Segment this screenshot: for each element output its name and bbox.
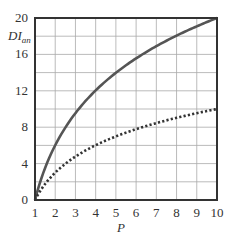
x-tick-label: 1 bbox=[32, 205, 39, 220]
x-tick-label: 8 bbox=[173, 205, 180, 220]
line-chart: 12345678910 048121620 DIan P bbox=[0, 0, 236, 247]
y-tick-label: 20 bbox=[15, 10, 28, 25]
x-tick-labels: 12345678910 bbox=[32, 205, 224, 220]
y-tick-label: 12 bbox=[15, 83, 28, 98]
x-tick-label: 3 bbox=[72, 205, 79, 220]
x-tick-label: 7 bbox=[153, 205, 160, 220]
x-tick-label: 6 bbox=[133, 205, 140, 220]
x-tick-label: 4 bbox=[92, 205, 99, 220]
y-tick-label: 16 bbox=[15, 46, 29, 61]
x-tick-label: 5 bbox=[113, 205, 120, 220]
y-tick-label: 0 bbox=[22, 192, 29, 207]
y-tick-label: 4 bbox=[22, 156, 29, 171]
series-dotted-line bbox=[35, 109, 217, 200]
y-tick-label: 8 bbox=[22, 119, 29, 134]
grid-lines bbox=[35, 18, 217, 200]
x-tick-label: 9 bbox=[194, 205, 201, 220]
x-tick-label: 10 bbox=[211, 205, 224, 220]
y-axis-label: DIan bbox=[7, 28, 31, 45]
x-axis-label: P bbox=[116, 220, 125, 235]
x-tick-label: 2 bbox=[52, 205, 59, 220]
